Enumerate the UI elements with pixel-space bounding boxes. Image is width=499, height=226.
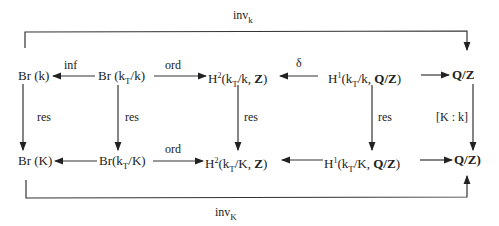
label-inv-K: invK [215, 206, 237, 223]
inv-K-base: inv [215, 205, 230, 219]
h2-kT-k-open: (k [221, 71, 232, 86]
inv-K-sub: K [230, 212, 237, 222]
node-h1-kT-K: H1(kT/K, Q/Z) [324, 154, 400, 176]
node-br-k: Br (k) [18, 69, 49, 83]
label-inv-k: invk [233, 9, 253, 26]
inv-k-bracket [25, 31, 467, 50]
label-ord-top: ord [165, 59, 181, 71]
node-br-kT-k: Br (kT/k) [98, 69, 145, 88]
label-inf: inf [64, 59, 77, 71]
inv-K-bracket [26, 176, 467, 198]
label-delta: δ [296, 57, 302, 69]
node-br-kT-K: Br(kT/K) [99, 154, 146, 173]
node-h2-kT-K: H2(kT/K, Z) [205, 154, 267, 176]
label-res-4: res [378, 111, 392, 123]
h1-kT-K-close: /K, [354, 156, 374, 171]
br-kT-K-open: (k [112, 153, 123, 168]
h1-kT-K-coef: Q/Z [373, 156, 395, 171]
node-h1-kT-k: H1(kT/k, Q/Z) [328, 69, 401, 91]
label-res-3: res [244, 111, 258, 123]
label-res-1: res [37, 111, 51, 123]
h2-kT-k-coef: Z [254, 71, 263, 86]
h2-kT-k-close: /k, [238, 71, 255, 86]
label-ord-bottom: ord [165, 143, 181, 155]
node-qz-top: Q/Z [452, 68, 474, 82]
h1-kT-k-end: ) [397, 71, 401, 86]
h1-kT-k-open: (k [341, 71, 352, 86]
br-kT-k-base: Br [98, 68, 111, 83]
h1-kT-K-end: ) [396, 156, 400, 171]
h2-kT-K-base: H [205, 156, 214, 171]
inv-k-base: inv [233, 8, 248, 22]
h2-kT-K-open: (k [218, 156, 229, 171]
h2-kT-K-close: /K, [235, 156, 255, 171]
br-K-arg: (K) [34, 153, 52, 168]
h2-kT-K-end: ) [263, 156, 267, 171]
inv-k-sub: k [248, 15, 253, 25]
br-kT-K-base: Br [99, 153, 112, 168]
node-qz-bottom: Q/Z) [454, 153, 481, 167]
br-kT-K-close: /K) [128, 153, 145, 168]
h2-kT-k-base: H [208, 71, 217, 86]
br-k-base: Br [18, 68, 31, 83]
node-h2-kT-k: H2(kT/k, Z) [208, 69, 267, 91]
br-k-arg: (k) [34, 68, 49, 83]
h1-kT-k-coef: Q/Z [374, 71, 396, 86]
h2-kT-K-coef: Z [254, 156, 263, 171]
label-res-2: res [125, 111, 139, 123]
br-kT-k-close: /k) [131, 68, 145, 83]
h1-kT-K-base: H [324, 156, 333, 171]
h1-kT-K-open: (k [337, 156, 348, 171]
br-K-base: Br [18, 153, 31, 168]
h2-kT-k-end: ) [263, 71, 267, 86]
label-index: [K : k] [436, 111, 468, 123]
h1-kT-k-base: H [328, 71, 337, 86]
br-kT-k-open: (k [114, 68, 125, 83]
h1-kT-k-close: /k, [358, 71, 375, 86]
node-br-K: Br (K) [18, 154, 52, 168]
